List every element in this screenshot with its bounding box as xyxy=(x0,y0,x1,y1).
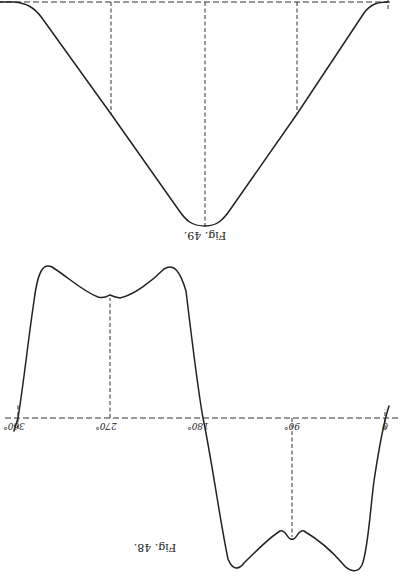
figure-canvas: Fig. 49. 0 90° 180° 270° 360° xyxy=(0,0,404,581)
fig49-diagram: Fig. 49. xyxy=(0,0,390,242)
fig48-label-360: 360° xyxy=(3,421,25,431)
fig48-label-270: 270° xyxy=(95,421,118,431)
fig48-label-90: 90° xyxy=(284,421,300,431)
fig48-caption: Fig. 48. xyxy=(134,541,177,554)
fig48-diagram: 0 90° 180° 270° 360° Fig. 48. xyxy=(3,266,398,571)
fig49-curve xyxy=(0,2,388,226)
fig49-caption: Fig. 49. xyxy=(184,229,227,242)
fig48-label-0: 0 xyxy=(382,421,388,431)
fig48-label-180: 180° xyxy=(187,421,209,431)
